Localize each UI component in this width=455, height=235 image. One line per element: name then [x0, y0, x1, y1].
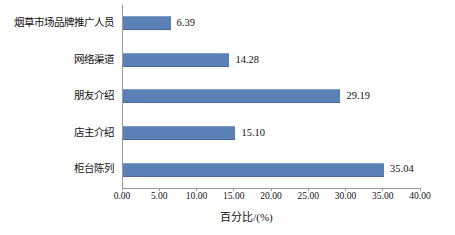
bar-value-label: 6.39: [177, 18, 195, 29]
bar-value-label: 14.28: [235, 55, 259, 66]
bar-value-label: 15.10: [241, 128, 265, 139]
bar-rows: 烟草市场品牌推广人员6.39网络渠道14.28朋友介绍29.19店主介绍15.1…: [0, 5, 455, 188]
bar-category-label: 朋友介绍: [0, 91, 118, 102]
x-axis-ticks: 0.005.0010.0015.0020.0025.0030.0035.0040…: [0, 188, 455, 208]
table-row: 网络渠道14.28: [0, 42, 455, 79]
table-row: 店主介绍15.10: [0, 115, 455, 152]
bar-wrapper: 14.28: [123, 42, 259, 79]
bar: [123, 16, 171, 30]
bar-category-label: 烟草市场品牌推广人员: [0, 18, 118, 29]
table-row: 柜台陈列35.04: [0, 151, 455, 188]
bar-wrapper: 29.19: [123, 78, 370, 115]
x-axis-tick: 40.00: [390, 188, 450, 202]
bar: [123, 163, 384, 177]
horizontal-bar-chart: 烟草市场品牌推广人员6.39网络渠道14.28朋友介绍29.19店主介绍15.1…: [0, 0, 455, 235]
bar-value-label: 29.19: [346, 91, 370, 102]
bar-category-label: 网络渠道: [0, 55, 118, 66]
bar: [123, 89, 340, 103]
bar-category-label: 柜台陈列: [0, 164, 118, 175]
x-axis-tick-label: 40.00: [390, 192, 450, 202]
x-axis-title-text: 百分比/(%): [220, 212, 273, 223]
bar: [123, 53, 229, 67]
bar-wrapper: 15.10: [123, 115, 265, 152]
bar-wrapper: 6.39: [123, 5, 195, 42]
table-row: 朋友介绍29.19: [0, 78, 455, 115]
bar: [123, 126, 235, 140]
bar-value-label: 35.04: [390, 164, 414, 175]
table-row: 烟草市场品牌推广人员6.39: [0, 5, 455, 42]
bar-wrapper: 35.04: [123, 151, 414, 188]
bar-category-label: 店主介绍: [0, 128, 118, 139]
x-axis-title: 百分比/(%): [0, 212, 455, 223]
